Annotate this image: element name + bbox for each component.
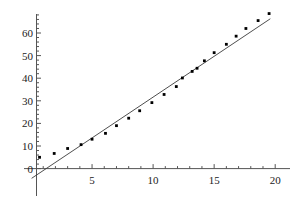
x-tick-label: 10	[148, 174, 160, 186]
data-point-marker	[175, 85, 178, 88]
x-tick-label: 5	[89, 174, 95, 186]
y-axis-tick-labels: 0102030405060	[22, 27, 34, 175]
data-point-marker	[80, 143, 83, 146]
data-point-marker	[115, 124, 118, 127]
data-point-marker	[104, 132, 107, 135]
data-point-marker	[66, 147, 69, 150]
data-point-marker	[191, 70, 194, 73]
data-point-marker	[91, 138, 94, 141]
data-point-marker	[138, 109, 141, 112]
data-point-marker	[163, 93, 166, 96]
data-point-marker	[150, 101, 153, 104]
data-point-marker	[181, 77, 184, 80]
x-tick-label: 20	[270, 174, 282, 186]
data-point-marker	[196, 67, 199, 70]
data-point-marker	[213, 51, 216, 54]
scatter-plot-figure: 5101520 0102030405060	[0, 0, 297, 205]
x-axis-ticks	[43, 164, 275, 169]
data-point-marker	[244, 27, 247, 30]
y-tick-label: 50	[22, 50, 34, 62]
y-tick-label: 20	[22, 117, 34, 129]
y-tick-label: 30	[22, 95, 34, 107]
y-axis-ticks	[37, 15, 42, 169]
data-point-marker	[127, 117, 130, 120]
y-tick-label: 10	[22, 140, 34, 152]
fit-line-segment	[32, 19, 271, 179]
data-points-group	[38, 12, 270, 159]
plot-canvas: 5101520 0102030405060	[0, 0, 297, 205]
data-point-marker	[225, 43, 228, 46]
data-point-marker	[53, 152, 56, 155]
x-tick-label: 15	[209, 174, 221, 186]
y-tick-label: 0	[28, 163, 34, 175]
data-point-marker	[268, 12, 271, 15]
axes-group	[24, 14, 290, 196]
x-axis-tick-labels: 5101520	[89, 174, 281, 186]
data-point-marker	[257, 19, 260, 22]
data-point-marker	[235, 35, 238, 38]
y-tick-label: 40	[22, 72, 34, 84]
data-point-marker	[203, 59, 206, 62]
y-tick-label: 60	[22, 27, 34, 39]
data-point-marker	[38, 156, 41, 159]
linear-fit-line	[32, 19, 271, 179]
